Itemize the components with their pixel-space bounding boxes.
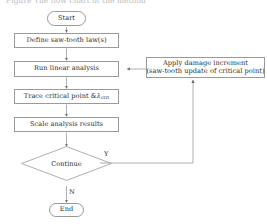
node-run-linear-analysis[interactable]: Run linear analysis: [14, 61, 119, 77]
node-define-label: Define saw-tooth law(s): [26, 37, 106, 45]
node-start[interactable]: Start: [47, 11, 86, 26]
lambda-subscript: crit: [101, 95, 109, 100]
node-end-label: End: [60, 206, 73, 214]
node-apply-damage-increment[interactable]: Apply damage increment (saw-tooth update…: [146, 57, 265, 78]
node-scale-analysis-results[interactable]: Scale analysis results: [14, 117, 119, 132]
branch-label-no: N: [69, 188, 75, 196]
node-trace-label-text: Trace critical point &: [24, 92, 97, 100]
node-apply-label-line2: (saw-tooth update of critical point): [146, 68, 264, 76]
node-trace-label: Trace critical point &λcrit: [24, 93, 110, 101]
node-start-label: Start: [58, 15, 75, 23]
node-scale-label: Scale analysis results: [30, 121, 103, 129]
cut-off-caption: Figure The flow chart of the method: [6, 0, 206, 5]
node-trace-critical-point[interactable]: Trace critical point &λcrit: [14, 89, 119, 104]
node-run-label: Run linear analysis: [34, 65, 99, 73]
node-end[interactable]: End: [49, 203, 84, 217]
node-define-saw-tooth-law[interactable]: Define saw-tooth law(s): [14, 33, 119, 48]
branch-label-yes: Y: [104, 150, 108, 158]
node-continue-decision[interactable]: [21, 146, 112, 181]
